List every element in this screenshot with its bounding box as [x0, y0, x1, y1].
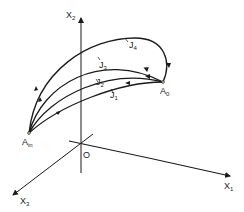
trajectory-diagram: X2 X1 X3 O Ain A0 J1 J2 J3 J4 [0, 0, 244, 212]
origin-label: O [83, 150, 90, 160]
point-a-0 [162, 81, 165, 84]
j1-label: J1 [110, 90, 119, 101]
arrow-icon [142, 65, 148, 71]
x2-axis-label: X2 [66, 10, 76, 21]
point-a-in [28, 132, 31, 135]
a-0-label: A0 [160, 86, 170, 97]
x1-axis [69, 141, 230, 176]
arrow-icon [34, 86, 38, 91]
j4-label: J4 [129, 40, 138, 51]
j3-label: J3 [99, 60, 108, 71]
arrow-icon [56, 111, 61, 115]
x1-axis-label: X1 [224, 181, 234, 192]
a-in-label: Ain [22, 137, 33, 148]
j2-label: J2 [96, 77, 105, 88]
curve-j3 [29, 65, 163, 133]
arrow-icon [125, 81, 130, 85]
x3-axis-label: X3 [20, 196, 30, 207]
curve-j1 [29, 81, 163, 133]
